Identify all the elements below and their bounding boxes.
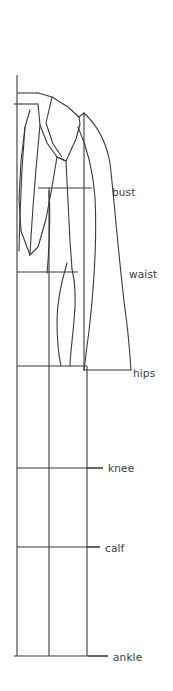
body-measurement-croquis: bust waist hips knee calf ankle [0, 0, 173, 691]
label-calf: calf [105, 542, 125, 554]
label-knee: knee [108, 462, 134, 474]
label-waist: waist [129, 268, 157, 280]
label-bust: bust [112, 186, 136, 198]
label-hips: hips [133, 367, 155, 379]
label-ankle: ankle [113, 651, 142, 663]
